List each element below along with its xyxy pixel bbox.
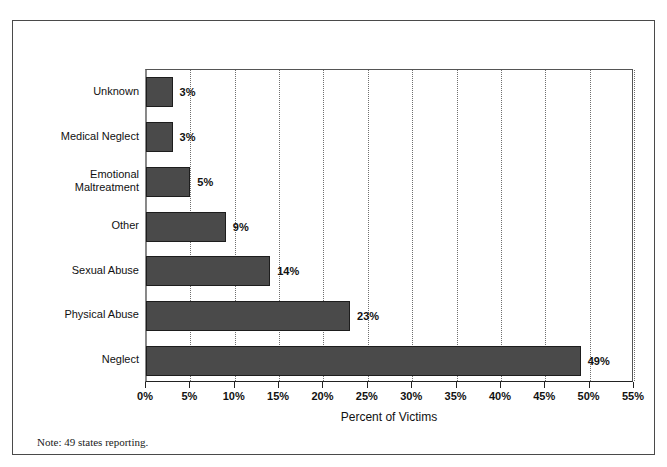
bar-emotional-maltreatment xyxy=(146,167,190,197)
bar-unknown xyxy=(146,77,173,107)
category-label-sexual-abuse: Sexual Abuse xyxy=(21,264,139,277)
x-tick-label-10%: 10% xyxy=(223,390,245,402)
x-tick-label-0%: 0% xyxy=(137,390,153,402)
x-tick-label-15%: 15% xyxy=(267,390,289,402)
bar-neglect xyxy=(146,346,581,376)
x-tick-label-30%: 30% xyxy=(400,390,422,402)
bar-physical-abuse xyxy=(146,301,350,331)
category-label-unknown: Unknown xyxy=(21,85,139,98)
x-tick-label-40%: 40% xyxy=(489,390,511,402)
chart-note: Note: 49 states reporting. xyxy=(37,436,148,448)
bar-value-label: 3% xyxy=(173,86,196,98)
x-tick-5% xyxy=(189,382,190,388)
figure-frame: NeglectPhysical AbuseSexual AbuseOtherEm… xyxy=(12,20,655,455)
bar-medical-neglect xyxy=(146,122,173,152)
x-tick-25% xyxy=(367,382,368,388)
x-tick-35% xyxy=(456,382,457,388)
bar-row: 5% xyxy=(146,167,634,197)
bar-row: 23% xyxy=(146,301,634,331)
category-label-emotional-maltreatment: EmotionalMaltreatment xyxy=(21,168,139,194)
x-axis: 0%5%10%15%20%25%30%35%40%45%50%55% xyxy=(145,382,633,408)
bar-value-label: 3% xyxy=(173,131,196,143)
x-tick-label-5%: 5% xyxy=(181,390,197,402)
x-tick-30% xyxy=(411,382,412,388)
bar-row: 3% xyxy=(146,122,634,152)
plot-area: 49%23%14%9%5%3%3% xyxy=(145,69,633,382)
bar-value-label: 5% xyxy=(190,176,213,188)
bar-sexual-abuse xyxy=(146,256,270,286)
x-tick-45% xyxy=(544,382,545,388)
bar-value-label: 23% xyxy=(350,310,379,322)
category-label-neglect: Neglect xyxy=(21,353,139,366)
bar-row: 49% xyxy=(146,346,634,376)
x-tick-label-20%: 20% xyxy=(311,390,333,402)
bar-row: 9% xyxy=(146,212,634,242)
x-tick-10% xyxy=(234,382,235,388)
bar-row: 14% xyxy=(146,256,634,286)
x-tick-label-45%: 45% xyxy=(533,390,555,402)
gridline-55% xyxy=(634,70,635,381)
x-tick-50% xyxy=(589,382,590,388)
category-label-other: Other xyxy=(21,219,139,232)
x-tick-0% xyxy=(145,382,146,388)
category-label-physical-abuse: Physical Abuse xyxy=(21,308,139,321)
x-tick-label-35%: 35% xyxy=(445,390,467,402)
bar-value-label: 49% xyxy=(581,355,610,367)
x-tick-label-55%: 55% xyxy=(622,390,644,402)
x-axis-title: Percent of Victims xyxy=(145,410,633,424)
bar-row: 3% xyxy=(146,77,634,107)
top-cutoff-text xyxy=(228,0,448,6)
bar-other xyxy=(146,212,226,242)
bar-value-label: 9% xyxy=(226,221,249,233)
source-line xyxy=(4,458,664,467)
y-axis-category-labels: NeglectPhysical AbuseSexual AbuseOtherEm… xyxy=(21,69,139,382)
x-tick-40% xyxy=(500,382,501,388)
x-tick-label-25%: 25% xyxy=(356,390,378,402)
category-label-medical-neglect: Medical Neglect xyxy=(21,130,139,143)
x-tick-15% xyxy=(278,382,279,388)
bar-value-label: 14% xyxy=(270,265,299,277)
x-tick-55% xyxy=(633,382,634,388)
x-tick-20% xyxy=(322,382,323,388)
x-tick-label-50%: 50% xyxy=(578,390,600,402)
